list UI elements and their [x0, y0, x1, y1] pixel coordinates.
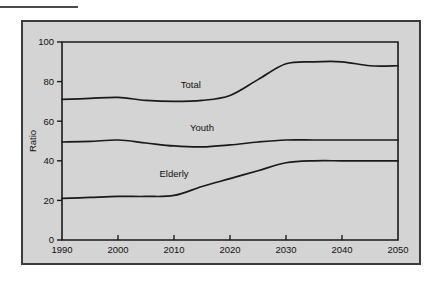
data-series-group: [62, 61, 398, 198]
line-chart: 020406080100 199020002010202020302040205…: [0, 0, 443, 289]
x-tick-label: 2000: [107, 244, 128, 255]
series-label-total: Total: [181, 79, 201, 90]
y-axis-tick-labels: 020406080100: [38, 36, 54, 245]
x-tick-label: 1990: [51, 244, 72, 255]
series-label-youth: Youth: [190, 122, 214, 133]
figure-container: 020406080100 199020002010202020302040205…: [0, 0, 443, 289]
x-tick-label: 2020: [219, 244, 240, 255]
plot-frame: [62, 42, 398, 240]
y-tick-label: 60: [43, 116, 54, 127]
x-tick-label: 2030: [275, 244, 296, 255]
y-tick-label: 80: [43, 76, 54, 87]
y-tick-label: 100: [38, 36, 54, 47]
x-tick-label: 2010: [163, 244, 184, 255]
y-tick-label: 20: [43, 195, 54, 206]
series-line-total: [62, 61, 398, 101]
series-line-youth: [62, 140, 398, 147]
series-line-elderly: [62, 161, 398, 199]
y-axis-title: Ratio: [27, 130, 38, 152]
series-inline-labels: TotalYouthElderly: [159, 79, 214, 179]
x-tick-label: 2040: [331, 244, 352, 255]
series-label-elderly: Elderly: [159, 168, 188, 179]
y-tick-label: 40: [43, 155, 54, 166]
x-axis-tick-labels: 1990200020102020203020402050: [51, 244, 408, 255]
axis-frame: [62, 42, 398, 240]
x-tick-label: 2050: [387, 244, 408, 255]
